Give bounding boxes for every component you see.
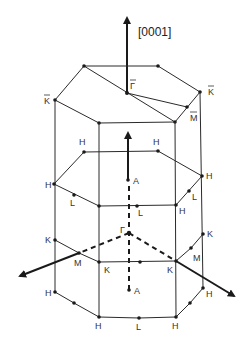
label-k-left: K: [45, 235, 51, 245]
brillouin-zone-diagram: [0001] Γ K K M: [0, 0, 252, 350]
label-m-left: M: [74, 258, 82, 268]
label-h-bottom-left: H: [45, 288, 52, 298]
svg-text:K: K: [44, 96, 50, 106]
label-l-mid-front: L: [138, 208, 143, 218]
label-l-bottom: L: [136, 322, 141, 332]
label-l-mid-right: L: [192, 192, 197, 202]
label-m-right: M: [193, 253, 201, 263]
label-h-bottom-front-left: H: [95, 321, 102, 331]
k-bar-left-label: K: [44, 95, 50, 106]
label-a-bottom: A: [134, 286, 140, 296]
m-bar-label: M: [190, 112, 198, 123]
axis-label: [0001]: [138, 25, 171, 39]
a-arrow: [126, 133, 130, 182]
label-h-top-right: H: [153, 137, 160, 147]
svg-text:Γ: Γ: [130, 81, 135, 91]
central-dashed-axis: [127, 186, 131, 292]
k-bar-right-label: K: [208, 86, 214, 97]
label-l-mid-left: L: [70, 198, 75, 208]
label-gamma: Γ: [120, 225, 125, 235]
gamma-bar-label: Γ: [130, 80, 136, 91]
svg-text:K: K: [208, 87, 214, 97]
label-k-front-right: K: [167, 265, 173, 275]
label-h-mid-left: H: [45, 180, 52, 190]
label-k-right: K: [207, 229, 213, 239]
label-h-mid-right: H: [206, 171, 213, 181]
label-k-front-left: K: [104, 265, 110, 275]
svg-text:M: M: [190, 113, 198, 123]
label-a-top: A: [133, 176, 139, 186]
label-h-bottom-right: H: [206, 289, 213, 299]
label-h-mid-front-right: H: [179, 206, 186, 216]
label-h-top-left: H: [79, 137, 86, 147]
label-h-bottom-front-right: H: [172, 321, 179, 331]
